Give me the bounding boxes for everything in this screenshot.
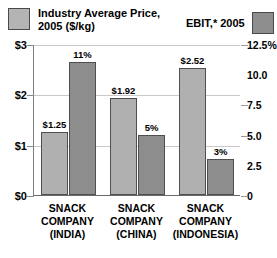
y-axis-left-tick-label: $1 <box>15 140 27 152</box>
y-axis-right: 12.5%10.07.55.02.50 <box>247 45 277 196</box>
chart-container: Industry Average Price, 2005 ($/kg) EBIT… <box>0 0 277 258</box>
x-axis-category-label: SNACK COMPANY (INDIA) <box>41 202 94 241</box>
chart-legend: Industry Average Price, 2005 ($/kg) EBIT… <box>0 0 277 38</box>
bar-price <box>41 132 68 195</box>
legend-item-industry-average-price: Industry Average Price, 2005 ($/kg) <box>8 8 160 32</box>
bar-ebit <box>207 159 234 195</box>
bar-price <box>110 98 137 195</box>
y-axis-left-tick <box>27 146 34 147</box>
bar-value-label-ebit: 3% <box>214 146 228 157</box>
gridline <box>34 95 240 96</box>
legend-swatch-ebit-icon <box>252 12 274 34</box>
y-axis-left-tick <box>27 45 34 46</box>
y-axis-right-tick-label: 12.5% <box>247 39 277 51</box>
y-axis-right-tick-label: 10.0 <box>247 69 267 81</box>
x-axis-category-labels: SNACK COMPANY (INDIA)SNACK COMPANY (CHIN… <box>33 202 240 254</box>
y-axis-right-tick-label: 2.5 <box>247 160 262 172</box>
legend-swatch-price-icon <box>8 8 30 30</box>
bar-value-label-ebit: 11% <box>73 49 92 60</box>
bar-value-label-ebit: 5% <box>145 122 159 133</box>
y-axis-left: $3$2$1$0 <box>0 45 27 196</box>
y-axis-left-tick <box>27 196 34 197</box>
x-axis-category-label: SNACK COMPANY (INDONESIA) <box>173 202 238 241</box>
legend-label-industry-average-price: Industry Average Price, 2005 ($/kg) <box>38 7 160 32</box>
y-axis-left-tick-label: $2 <box>15 89 27 101</box>
gridline <box>34 45 240 46</box>
y-axis-left-tick-label: $0 <box>15 190 27 202</box>
x-axis-category-label: SNACK COMPANY (CHINA) <box>110 202 163 241</box>
bar-value-label-price: $2.52 <box>181 55 205 66</box>
bar-ebit <box>138 135 165 195</box>
y-axis-right-tick <box>241 105 248 106</box>
y-axis-right-tick-label: 7.5 <box>247 99 262 111</box>
bar-value-label-price: $1.92 <box>112 85 136 96</box>
y-axis-left-tick-label: $3 <box>15 39 27 51</box>
y-axis-right-tick <box>241 196 248 197</box>
bar-value-label-price: $1.25 <box>43 119 67 130</box>
plot-area: $1.2511%$1.925%$2.523% <box>33 45 240 196</box>
y-axis-left-tick <box>27 95 34 96</box>
y-axis-right-tick <box>241 45 248 46</box>
bar-price <box>179 68 206 195</box>
legend-label-ebit: EBIT,* 2005 <box>186 17 245 30</box>
y-axis-right-tick-label: 5.0 <box>247 130 262 142</box>
y-axis-right-tick <box>241 136 248 137</box>
bar-ebit <box>69 62 96 195</box>
legend-item-ebit: EBIT,* 2005 <box>186 12 274 34</box>
